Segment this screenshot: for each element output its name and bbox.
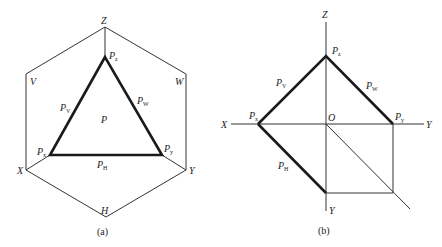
trace-pz: P z — [331, 45, 341, 57]
label-z: Z — [101, 15, 107, 26]
label-y: Y — [189, 165, 196, 176]
svg-text:V: V — [66, 108, 71, 114]
label-y-axis-down: Y — [329, 205, 336, 216]
svg-text:x: x — [43, 152, 46, 158]
svg-text:y: y — [170, 149, 173, 155]
label-x-axis: X — [220, 119, 228, 130]
y-axis-segment — [162, 155, 186, 170]
caption-b: (b) — [318, 225, 330, 237]
label-y-axis-right: Y — [426, 119, 433, 130]
trace-px: P x — [248, 110, 258, 122]
svg-text:H: H — [284, 166, 289, 172]
svg-text:W: W — [372, 86, 378, 92]
label-x: X — [16, 165, 24, 176]
caption-a: (a) — [97, 226, 108, 238]
figure-b: Z X Y Y O P z P V P W P x P y P H (b) — [220, 9, 433, 237]
svg-text:z: z — [115, 56, 118, 62]
trace-ph: P H — [277, 160, 289, 172]
label-v: V — [30, 76, 38, 87]
svg-text:y: y — [401, 117, 404, 123]
label-h: H — [100, 205, 109, 216]
label-plane-p: P — [100, 114, 107, 125]
diagram-canvas: Z V W X Y H P P z P V P W P x P y P H — [0, 0, 442, 247]
svg-text:z: z — [338, 51, 341, 57]
svg-text:W: W — [143, 101, 149, 107]
svg-text:H: H — [103, 165, 108, 171]
trace-pz: P z — [108, 50, 118, 62]
trace-pv: P V — [59, 102, 71, 114]
trace-pw: P W — [365, 80, 378, 92]
trace-ph: P H — [96, 159, 108, 171]
svg-text:x: x — [255, 116, 258, 122]
x-axis-segment — [26, 155, 50, 170]
label-origin-o: O — [328, 112, 335, 123]
trace-py: P y — [163, 143, 173, 155]
trace-ph-line — [258, 124, 326, 193]
svg-text:V: V — [282, 83, 287, 89]
trace-pw: P W — [136, 95, 149, 107]
trace-py: P y — [394, 111, 404, 123]
45-degree-helper-line — [326, 124, 410, 209]
trace-pv: P V — [275, 77, 287, 89]
trace-px: P x — [36, 146, 46, 158]
label-z-axis: Z — [322, 9, 328, 20]
label-w: W — [175, 76, 185, 87]
figure-a: Z V W X Y H P P z P V P W P x P y P H — [16, 15, 196, 238]
